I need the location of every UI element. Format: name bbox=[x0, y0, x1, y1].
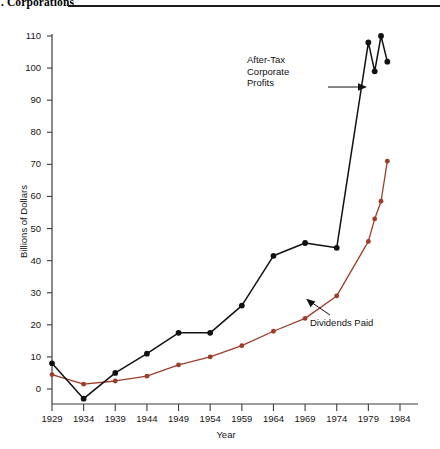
data-point-marker bbox=[49, 360, 55, 366]
y-tick-label: 40 bbox=[11, 256, 41, 266]
y-axis-ticks bbox=[47, 36, 52, 389]
series-line bbox=[52, 36, 387, 399]
data-point-marker bbox=[239, 343, 244, 348]
data-point-marker bbox=[379, 199, 384, 204]
data-point-marker bbox=[378, 33, 384, 39]
data-point-marker bbox=[384, 59, 390, 65]
data-point-marker bbox=[303, 316, 308, 321]
data-point-marker bbox=[145, 374, 150, 379]
data-point-marker bbox=[144, 351, 150, 357]
data-point-marker bbox=[112, 370, 118, 376]
data-point-marker bbox=[81, 382, 86, 387]
data-point-marker bbox=[271, 253, 277, 259]
y-tick-label: 50 bbox=[11, 224, 41, 234]
data-point-marker bbox=[81, 396, 87, 402]
data-point-marker bbox=[207, 330, 213, 336]
data-point-marker bbox=[113, 379, 118, 384]
series-after-tax-corporate-profits bbox=[49, 33, 390, 401]
annotation-arrowhead-dividends bbox=[306, 299, 315, 307]
y-tick-label: 0 bbox=[11, 384, 41, 394]
line-chart: Billions of Dollars Year After-Tax Corpo… bbox=[0, 0, 440, 449]
series-dividends-paid bbox=[50, 159, 390, 387]
annotation-after-tax-corporate-profits: After-Tax Corporate Profits bbox=[247, 54, 327, 89]
y-tick-label: 100 bbox=[11, 63, 41, 73]
x-tick-label: 1984 bbox=[380, 414, 420, 424]
x-axis-label: Year bbox=[186, 429, 266, 440]
data-point-marker bbox=[372, 68, 378, 74]
series-line bbox=[52, 161, 387, 384]
y-tick-label: 90 bbox=[11, 95, 41, 105]
y-tick-label: 70 bbox=[11, 159, 41, 169]
y-tick-label: 60 bbox=[11, 191, 41, 201]
data-point-marker bbox=[271, 329, 276, 334]
data-point-marker bbox=[50, 372, 55, 377]
data-point-marker bbox=[366, 239, 371, 244]
data-point-marker bbox=[372, 217, 377, 222]
data-point-marker bbox=[365, 40, 371, 46]
data-point-marker bbox=[208, 355, 213, 360]
data-point-marker bbox=[176, 363, 181, 368]
y-tick-label: 30 bbox=[11, 288, 41, 298]
y-tick-label: 110 bbox=[11, 31, 41, 41]
data-point-marker bbox=[176, 330, 182, 336]
annotation-dividends-paid: Dividends Paid bbox=[310, 317, 400, 329]
data-point-marker bbox=[334, 245, 340, 251]
data-point-marker bbox=[334, 294, 339, 299]
y-tick-label: 10 bbox=[11, 352, 41, 362]
annotation-leader-lines bbox=[306, 83, 367, 315]
data-point-marker bbox=[385, 159, 390, 164]
data-point-marker bbox=[302, 240, 308, 246]
y-tick-label: 80 bbox=[11, 127, 41, 137]
x-axis-ticks bbox=[52, 404, 400, 411]
chart-plot-area bbox=[0, 0, 440, 449]
y-tick-label: 20 bbox=[11, 320, 41, 330]
data-point-marker bbox=[239, 303, 245, 309]
